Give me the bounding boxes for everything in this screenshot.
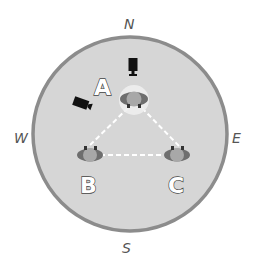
compass-east: E: [232, 130, 241, 146]
compass-west: W: [14, 130, 29, 146]
compass-south: S: [122, 240, 131, 256]
person-c-label: C: [168, 173, 184, 198]
person-a-label: A: [94, 75, 111, 100]
compass-north: N: [124, 16, 135, 32]
stage-diagram: N S W E A B C: [0, 0, 253, 264]
person-b-label: B: [80, 173, 97, 198]
